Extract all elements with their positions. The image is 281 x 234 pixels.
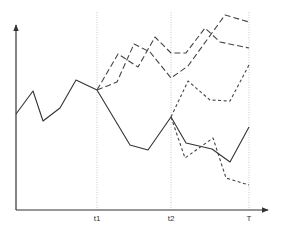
x-tick-label: t1 xyxy=(94,214,101,223)
series-scenario-t2-a xyxy=(171,65,249,117)
series-realized-path xyxy=(16,80,249,162)
series-scenario-t2-b xyxy=(171,117,249,185)
x-tick-label: t2 xyxy=(168,214,175,223)
x-tick-label: T xyxy=(247,214,252,223)
series-group xyxy=(16,15,249,185)
x-tick-labels: t1t2T xyxy=(94,214,252,223)
series-scenario-t1-a xyxy=(97,28,249,90)
series-scenario-t1-b xyxy=(97,15,249,90)
time-marker-lines xyxy=(97,12,249,210)
scenario-tree-chart: t1t2T xyxy=(0,0,281,234)
